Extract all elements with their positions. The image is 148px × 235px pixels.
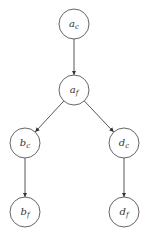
edge-af-to-dc — [84, 101, 113, 132]
node-bf: bf — [10, 197, 40, 227]
tree-diagram: acafbcdcbfdf — [0, 0, 148, 235]
edge-af-to-bc — [35, 101, 64, 132]
node-ac: ac — [59, 9, 89, 39]
node-af: af — [59, 75, 89, 105]
node-dc: dc — [109, 128, 139, 158]
node-df: df — [109, 197, 139, 227]
node-bc: bc — [10, 128, 40, 158]
edges — [25, 39, 124, 197]
nodes: acafbcdcbfdf — [10, 9, 139, 227]
